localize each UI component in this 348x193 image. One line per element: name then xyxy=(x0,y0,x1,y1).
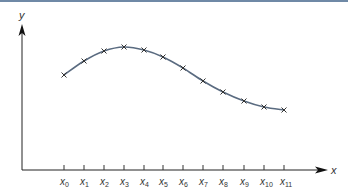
x-axis-label: x xyxy=(330,164,337,176)
x-tick-label: x7 xyxy=(198,176,208,188)
x-tick-label: x8 xyxy=(218,176,228,188)
x-tick-label: x0 xyxy=(59,176,69,188)
x-tick-label: x4 xyxy=(139,176,149,188)
x-marker-icon xyxy=(181,66,186,71)
interpolation-chart: y x x0x1x2x3x4x5x6x7x8x9x10x11 xyxy=(0,0,348,193)
x-tick-label: x2 xyxy=(99,176,109,188)
x-marker-icon xyxy=(201,79,206,84)
x-tick-label: x3 xyxy=(119,176,129,188)
x-tick-label: x6 xyxy=(178,176,188,188)
x-marker-icon xyxy=(62,73,67,78)
x-tick-label: x9 xyxy=(239,176,249,188)
x-tick-label: x10 xyxy=(259,176,273,188)
curve-line xyxy=(64,47,284,110)
axes: y x xyxy=(18,9,337,176)
x-tick-label: x1 xyxy=(79,176,89,188)
y-axis-label: y xyxy=(18,9,26,21)
x-ticks: x0x1x2x3x4x5x6x7x8x9x10x11 xyxy=(59,165,292,188)
x-tick-label: x11 xyxy=(279,176,292,188)
x-marker-icon xyxy=(82,59,87,64)
x-tick-label: x5 xyxy=(158,176,168,188)
